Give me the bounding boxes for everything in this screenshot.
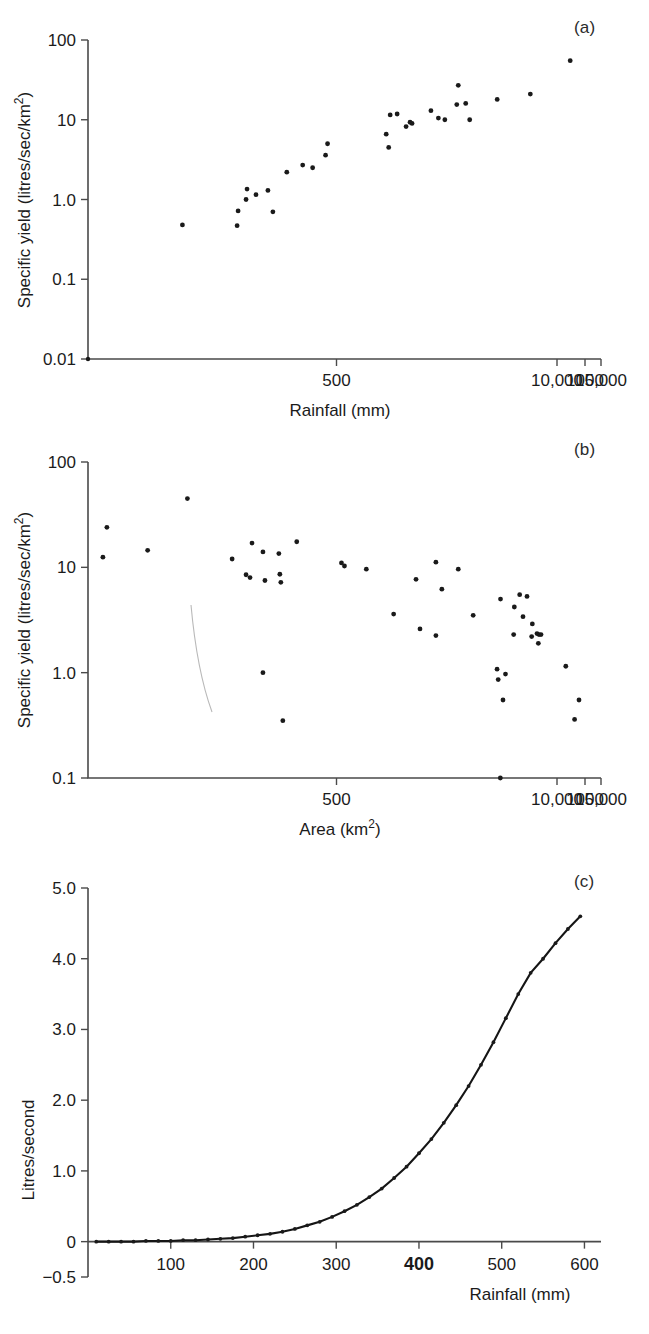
- y-tick-label: 0: [67, 1233, 76, 1252]
- y-tick-label: 1.0: [52, 1162, 76, 1181]
- chart-panel-a: (a) 0.010.11.010100500100010,00015,000Sp…: [0, 0, 649, 420]
- chart-panel-c: (c) −0.501.02.03.04.05.01002003004005006…: [0, 850, 649, 1334]
- x-tick-label: 600: [570, 1255, 598, 1274]
- x-axis-title-c: Rainfall (mm): [469, 1285, 570, 1304]
- x-tick-label: 500: [322, 790, 350, 809]
- svg-text:Litres/second: Litres/second: [19, 1099, 38, 1200]
- y-tick-label: 1.0: [52, 191, 76, 210]
- x-tick-label: 300: [322, 1255, 350, 1274]
- panel-label-a: (a): [574, 18, 595, 38]
- x-tick-label: 15,000: [575, 790, 627, 809]
- y-axis-title-a: Specific yield (litres/sec/km2): [12, 92, 34, 308]
- y-tick-label: −0.5: [42, 1268, 76, 1287]
- y-tick-label: 0.1: [52, 769, 76, 788]
- y-tick-label: 2.0: [52, 1091, 76, 1110]
- scatter-plot-b: 0.11.010100500100010,00015,000Specific y…: [0, 420, 649, 850]
- y-tick-label: 0.1: [52, 270, 76, 289]
- x-tick-label: 200: [239, 1255, 267, 1274]
- y-axis-title-b: Specific yield (litres/sec/km2): [12, 512, 34, 728]
- x-tick-label-bold: 400: [404, 1254, 434, 1274]
- y-axis-title-c: Litres/second: [19, 1099, 38, 1200]
- x-axis-title-a: Rainfall (mm): [289, 401, 390, 420]
- x-tick-label: 100: [157, 1255, 185, 1274]
- x-tick-label: 500: [488, 1255, 516, 1274]
- y-tick-label: 1.0: [52, 664, 76, 683]
- x-tick-label: 500: [322, 371, 350, 390]
- y-tick-label: 100: [48, 453, 76, 472]
- line-plot-c: −0.501.02.03.04.05.0100200300400500600Li…: [0, 850, 649, 1334]
- y-tick-label: 100: [48, 31, 76, 50]
- scatter-plot-a: 0.010.11.010100500100010,00015,000Specif…: [0, 0, 649, 420]
- x-tick-label: 15,000: [575, 371, 627, 390]
- y-tick-label: 3.0: [52, 1020, 76, 1039]
- y-tick-label: 0.01: [43, 350, 76, 369]
- y-tick-label: 4.0: [52, 950, 76, 969]
- svg-text:Specific yield (litres/sec/km2: Specific yield (litres/sec/km2): [12, 92, 34, 308]
- chart-panel-b: (b) 0.11.010100500100010,00015,000Specif…: [0, 420, 649, 850]
- svg-text:Specific yield (litres/sec/km2: Specific yield (litres/sec/km2): [12, 512, 34, 728]
- panel-label-b: (b): [574, 440, 595, 460]
- y-tick-label: 10: [57, 558, 76, 577]
- y-tick-label: 5.0: [52, 879, 76, 898]
- panel-label-c: (c): [574, 872, 594, 892]
- y-tick-label: 10: [57, 111, 76, 130]
